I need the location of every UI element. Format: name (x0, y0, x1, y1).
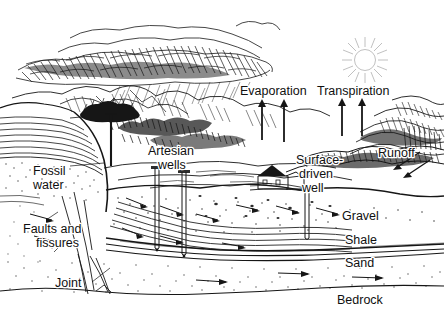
label-fossil-water-line1: Fossil (33, 164, 66, 178)
label-bedrock: Bedrock (337, 293, 384, 307)
hydrology-diagram: Evaporation Transpiration Runoff Artesia… (0, 0, 445, 316)
label-runoff: Runoff (378, 146, 415, 160)
label-gravel: Gravel (342, 209, 379, 223)
diagram-canvas: Evaporation Transpiration Runoff Artesia… (0, 0, 445, 316)
label-transpiration: Transpiration (317, 84, 390, 98)
label-sand: Sand (345, 256, 374, 270)
label-fossil-water-line2: water (32, 178, 64, 192)
label-surface-driven-well-line1: Surface- (296, 153, 343, 167)
label-surface-driven-well-line2: driven (299, 167, 333, 181)
label-surface-driven-well-line3: well (301, 181, 324, 195)
label-shale: Shale (345, 233, 377, 247)
label-evaporation: Evaporation (240, 84, 307, 98)
label-faults-line2: fissures (36, 236, 79, 250)
label-faults-line1: Faults and (23, 222, 81, 236)
label-artesian-wells-line2: wells (157, 158, 186, 172)
label-artesian-wells-line1: Artesian (148, 144, 194, 158)
label-joint: Joint (55, 276, 82, 290)
